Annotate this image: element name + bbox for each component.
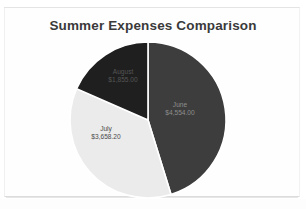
screenshot-root: Summer Expenses Comparison June $4,554.0… bbox=[0, 0, 306, 209]
pie-chart: June $4,554.00 July $3,658.20 August $1,… bbox=[0, 0, 306, 209]
pie-label-july: July $3,658.20 bbox=[77, 125, 135, 142]
pie-slices bbox=[70, 42, 226, 198]
pie-label-august-name: August bbox=[96, 68, 150, 76]
pie-label-july-name: July bbox=[77, 125, 135, 133]
pie-label-june: June $4,554.00 bbox=[152, 101, 208, 118]
pie-label-june-name: June bbox=[152, 101, 208, 109]
pie-label-june-value: $4,554.00 bbox=[152, 109, 208, 117]
pie-label-august: August $1,855.00 bbox=[96, 68, 150, 85]
pie-label-july-value: $3,658.20 bbox=[77, 133, 135, 141]
pie-label-august-value: $1,855.00 bbox=[96, 76, 150, 84]
